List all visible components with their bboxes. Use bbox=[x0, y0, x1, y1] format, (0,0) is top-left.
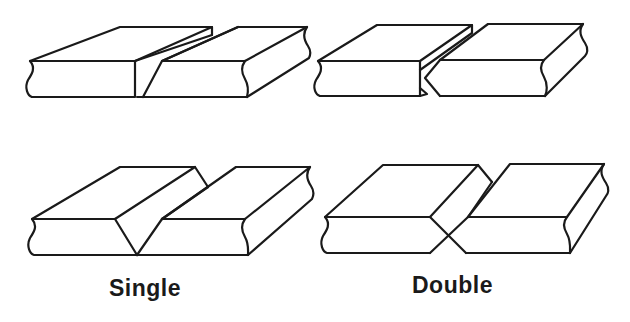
weld-joint-diagram: Single Double bbox=[0, 0, 630, 322]
diagram-drawing bbox=[0, 0, 630, 322]
single-bevel-joint bbox=[26, 27, 310, 97]
double-bevel-joint bbox=[314, 24, 587, 96]
single-bevel-right-plate bbox=[135, 27, 310, 97]
single-v-joint bbox=[28, 167, 313, 255]
double-bevel-right-plate bbox=[425, 24, 587, 96]
label-single: Single bbox=[109, 275, 181, 302]
single-v-right-plate bbox=[137, 167, 313, 255]
label-double: Double bbox=[412, 272, 493, 299]
double-v-left-plate bbox=[321, 165, 492, 253]
single-v-left-plate bbox=[28, 167, 208, 255]
double-v-joint bbox=[321, 164, 608, 253]
